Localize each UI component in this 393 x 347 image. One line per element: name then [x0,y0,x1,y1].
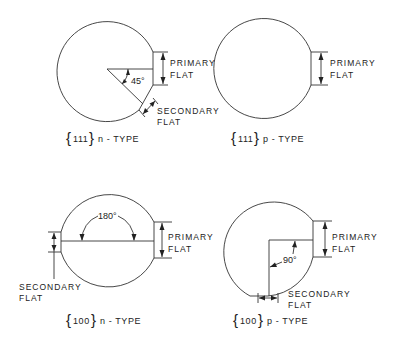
arrowhead-icon [319,77,324,84]
brace-right-icon: } [91,311,97,328]
angle-line [107,69,143,104]
brace-right-icon: } [258,311,264,328]
arrowhead-icon [319,53,324,60]
caption-type: p - TYPE [263,134,304,144]
caption-orientation: 100 [73,316,90,326]
arrowhead-icon [323,249,328,256]
arrowhead-icon [80,234,85,241]
angle-label: 45° [131,76,145,86]
panel-100-n-type: 180° PRIMARY FLAT SECONDARY FLAT { 100 }… [19,195,214,328]
secondary-flat-label: FLAT [157,117,181,127]
arrowhead-icon [271,296,277,301]
angle-label: 180° [98,211,117,221]
arrowhead-icon [270,263,277,268]
angle-arc [82,216,98,240]
arrowhead-icon [126,69,130,75]
caption-orientation: 111 [73,134,88,144]
arrowhead-icon [160,250,165,257]
primary-flat-label: FLAT [330,70,354,80]
brace-left-icon: { [231,129,237,146]
arrowhead-icon [52,245,57,251]
brace-left-icon: { [233,311,239,328]
panel-111-n-type: 45° PRIMARY FLAT SECONDARY FLAT { 111 } … [57,22,220,146]
primary-flat-label: FLAT [332,244,356,254]
wafer-outline [57,22,153,122]
primary-flat-label: PRIMARY [330,58,376,68]
primary-flat-label: FLAT [168,244,192,254]
arrowhead-icon [161,53,166,60]
angle-label: 90° [283,255,297,265]
secondary-flat-label: FLAT [288,300,312,310]
wafer-outline [224,202,313,296]
primary-flat-label: PRIMARY [332,232,378,242]
caption-type: n - TYPE [100,316,141,326]
arrowhead-icon [323,222,328,229]
caption-orientation: 111 [238,134,253,144]
primary-flat-label: FLAT [170,70,194,80]
arrowhead-icon [122,79,127,84]
caption-type: p - TYPE [267,316,308,326]
panel-100-p-type: 90° PRIMARY FLAT SECONDARY FLAT { 100 } … [224,202,378,328]
secondary-flat-label: SECONDARY [157,106,220,116]
arrowhead-icon [132,234,137,241]
brace-right-icon: } [254,129,260,146]
wafer-outline [214,18,311,118]
arrowhead-icon [161,77,166,84]
angle-arc [118,216,134,240]
secondary-flat-label: SECONDARY [19,282,82,292]
caption-orientation: 100 [240,316,257,326]
wafer-flat-diagram: 45° PRIMARY FLAT SECONDARY FLAT { 111 } … [0,0,393,347]
brace-right-icon: } [89,129,95,146]
arrowhead-icon [160,223,165,230]
brace-left-icon: { [66,311,72,328]
secondary-flat-label: SECONDARY [288,289,351,299]
secondary-flat-label: FLAT [19,293,43,303]
primary-flat-label: PRIMARY [170,58,216,68]
panel-111-p-type: PRIMARY FLAT { 111 } p - TYPE [214,18,376,146]
primary-flat-label: PRIMARY [168,232,214,242]
arrowhead-icon [52,233,57,239]
caption-type: n - TYPE [98,134,139,144]
brace-left-icon: { [66,129,72,146]
